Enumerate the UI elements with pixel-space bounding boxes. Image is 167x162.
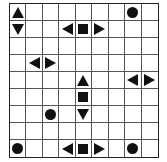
square-icon: [78, 144, 88, 154]
board-cell-r8-c6[interactable]: [109, 140, 125, 157]
board-cell-r5-c3[interactable]: [59, 89, 75, 106]
board-cell-r3-c1[interactable]: [26, 55, 42, 72]
board-cell-r8-c0[interactable]: [10, 140, 26, 157]
board-cell-r2-c5[interactable]: [92, 38, 108, 55]
triangle-left-icon: [29, 57, 40, 69]
board-cell-r5-c7[interactable]: [125, 89, 141, 106]
board-cell-r4-c8[interactable]: [142, 72, 158, 89]
board-cell-r3-c4[interactable]: [76, 55, 92, 72]
board-cell-r6-c4[interactable]: [76, 106, 92, 123]
board-cell-r7-c5[interactable]: [92, 123, 108, 140]
board-cell-r5-c5[interactable]: [92, 89, 108, 106]
board-cell-r2-c2[interactable]: [43, 38, 59, 55]
triangle-left-icon: [127, 74, 138, 86]
board-cell-r4-c3[interactable]: [59, 72, 75, 89]
square-icon: [78, 92, 88, 102]
triangle-down-icon: [77, 109, 89, 120]
board-cell-r7-c3[interactable]: [59, 123, 75, 140]
board-cell-r2-c1[interactable]: [26, 38, 42, 55]
board-cell-r3-c5[interactable]: [92, 55, 108, 72]
board-cell-r3-c8[interactable]: [142, 55, 158, 72]
board-cell-r5-c2[interactable]: [43, 89, 59, 106]
board-cell-r5-c0[interactable]: [10, 89, 26, 106]
board-cell-r3-c2[interactable]: [43, 55, 59, 72]
board-cell-r2-c6[interactable]: [109, 38, 125, 55]
board-cell-r6-c6[interactable]: [109, 106, 125, 123]
board-cell-r8-c4[interactable]: [76, 140, 92, 157]
board-cell-r6-c1[interactable]: [26, 106, 42, 123]
board-cell-r5-c8[interactable]: [142, 89, 158, 106]
board-cell-r3-c3[interactable]: [59, 55, 75, 72]
circle-icon: [12, 143, 23, 154]
board-cell-r4-c4[interactable]: [76, 72, 92, 89]
board-cell-r7-c0[interactable]: [10, 123, 26, 140]
board-cell-r4-c5[interactable]: [92, 72, 108, 89]
triangle-down-icon: [12, 24, 24, 35]
board-cell-r8-c8[interactable]: [142, 140, 158, 157]
board-cell-r1-c4[interactable]: [76, 21, 92, 38]
board-cell-r0-c6[interactable]: [109, 4, 125, 21]
board-cell-r1-c7[interactable]: [125, 21, 141, 38]
triangle-up-icon: [77, 75, 89, 86]
board-cell-r1-c5[interactable]: [92, 21, 108, 38]
board-cell-r4-c7[interactable]: [125, 72, 141, 89]
board-cell-r5-c4[interactable]: [76, 89, 92, 106]
board-cell-r7-c8[interactable]: [142, 123, 158, 140]
board-cell-r7-c7[interactable]: [125, 123, 141, 140]
triangle-up-icon: [12, 7, 24, 18]
board-cell-r1-c0[interactable]: [10, 21, 26, 38]
board-cell-r8-c3[interactable]: [59, 140, 75, 157]
board-cell-r2-c4[interactable]: [76, 38, 92, 55]
board-cell-r0-c2[interactable]: [43, 4, 59, 21]
board-cell-r8-c1[interactable]: [26, 140, 42, 157]
board-cell-r0-c7[interactable]: [125, 4, 141, 21]
board-cell-r7-c1[interactable]: [26, 123, 42, 140]
circle-icon: [127, 7, 138, 18]
board-cell-r4-c2[interactable]: [43, 72, 59, 89]
board-cell-r2-c0[interactable]: [10, 38, 26, 55]
board-cell-r3-c6[interactable]: [109, 55, 125, 72]
board-cell-r1-c1[interactable]: [26, 21, 42, 38]
board-cell-r2-c8[interactable]: [142, 38, 158, 55]
board-cell-r7-c2[interactable]: [43, 123, 59, 140]
board-cell-r6-c8[interactable]: [142, 106, 158, 123]
triangle-right-icon: [94, 143, 105, 155]
board-cell-r6-c2[interactable]: [43, 106, 59, 123]
board-cell-r4-c1[interactable]: [26, 72, 42, 89]
board-cell-r0-c0[interactable]: [10, 4, 26, 21]
circle-icon: [45, 109, 56, 120]
board-cell-r1-c3[interactable]: [59, 21, 75, 38]
board-cell-r0-c3[interactable]: [59, 4, 75, 21]
board-cell-r4-c6[interactable]: [109, 72, 125, 89]
board-cell-r6-c5[interactable]: [92, 106, 108, 123]
triangle-left-icon: [62, 143, 73, 155]
board-cell-r0-c8[interactable]: [142, 4, 158, 21]
board-cell-r2-c3[interactable]: [59, 38, 75, 55]
board-cell-r3-c0[interactable]: [10, 55, 26, 72]
board-cell-r5-c1[interactable]: [26, 89, 42, 106]
board-cell-r6-c0[interactable]: [10, 106, 26, 123]
board-cell-r7-c6[interactable]: [109, 123, 125, 140]
board-cell-r7-c4[interactable]: [76, 123, 92, 140]
board-cell-r1-c2[interactable]: [43, 21, 59, 38]
board-cell-r8-c7[interactable]: [125, 140, 141, 157]
triangle-right-icon: [144, 74, 155, 86]
circle-icon: [127, 143, 138, 154]
board-cell-r0-c1[interactable]: [26, 4, 42, 21]
board-cell-r2-c7[interactable]: [125, 38, 141, 55]
game-board: [9, 3, 159, 158]
board-cell-r1-c6[interactable]: [109, 21, 125, 38]
board-cell-r8-c5[interactable]: [92, 140, 108, 157]
triangle-left-icon: [62, 23, 73, 35]
board-cell-r6-c7[interactable]: [125, 106, 141, 123]
board-cell-r1-c8[interactable]: [142, 21, 158, 38]
board-cell-r0-c4[interactable]: [76, 4, 92, 21]
board-cell-r4-c0[interactable]: [10, 72, 26, 89]
board-cell-r3-c7[interactable]: [125, 55, 141, 72]
board-cell-r0-c5[interactable]: [92, 4, 108, 21]
board-cell-r5-c6[interactable]: [109, 89, 125, 106]
square-icon: [78, 24, 88, 34]
board-cell-r6-c3[interactable]: [59, 106, 75, 123]
board-cell-r8-c2[interactable]: [43, 140, 59, 157]
triangle-right-icon: [45, 57, 56, 69]
